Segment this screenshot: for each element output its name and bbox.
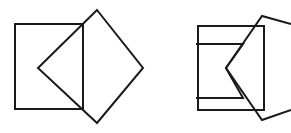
canvas-background [0, 0, 291, 133]
figure-canvas [0, 0, 291, 133]
